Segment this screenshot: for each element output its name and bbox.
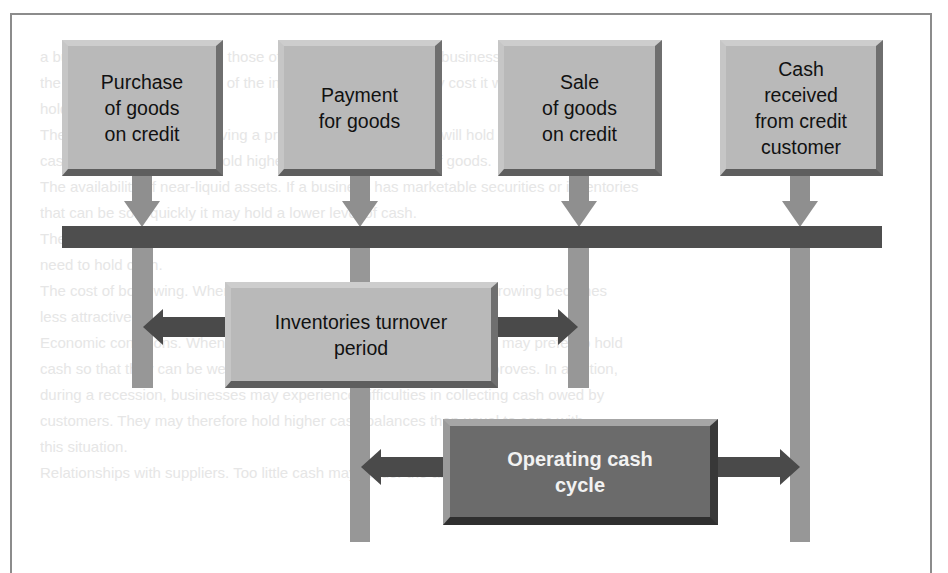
- period-box-inventories-turnover: Inventories turnover period: [225, 282, 498, 388]
- event-label: Cash received from credit customer: [755, 56, 847, 160]
- arrow-right-operating-cash: [716, 449, 800, 485]
- arrow-right-inventories: [496, 309, 578, 345]
- period-label: Operating cash cycle: [507, 446, 653, 498]
- event-box-sale: Sale of goods on credit: [498, 40, 662, 176]
- bleed-line: need to hold cash.: [40, 252, 920, 278]
- arrow-down-purchase: [124, 175, 160, 227]
- period-box-operating-cash-cycle: Operating cash cycle: [443, 419, 718, 525]
- event-label: Sale of goods on credit: [542, 69, 617, 147]
- arrow-down-payment: [342, 175, 378, 227]
- event-box-cash-received: Cash received from credit customer: [720, 40, 883, 176]
- arrow-left-inventories: [143, 309, 227, 345]
- arrow-left-operating-cash: [361, 449, 445, 485]
- period-label: Inventories turnover period: [275, 309, 447, 361]
- event-label: Payment for goods: [319, 82, 400, 134]
- arrow-down-cash-received: [782, 175, 818, 227]
- event-box-purchase: Purchase of goods on credit: [62, 40, 223, 176]
- event-label: Purchase of goods on credit: [101, 69, 183, 147]
- arrow-down-sale: [561, 175, 597, 227]
- pillar-cash-received: [790, 248, 810, 542]
- event-box-payment: Payment for goods: [278, 40, 442, 176]
- timeline-bar: [62, 226, 882, 248]
